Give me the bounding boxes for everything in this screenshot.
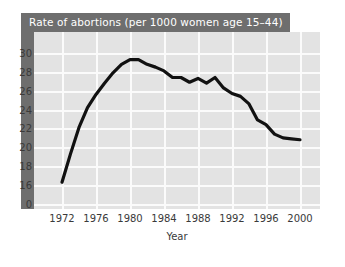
x-axis-tick-label: 1972 [49, 213, 74, 224]
chart-title: Rate of abortions (per 1000 women age 15… [21, 13, 290, 32]
data-line-series [34, 32, 320, 209]
x-axis-ticks: 19721976198019841988199219962000 [34, 213, 320, 227]
x-axis-tick-label: 1996 [253, 213, 278, 224]
y-axis-tick-label: 30 [6, 48, 32, 59]
y-axis-tick-label: 22 [6, 123, 32, 134]
y-axis-tick-label: 16 [6, 180, 32, 191]
y-axis-ticks: 30282624222018160 [0, 32, 32, 209]
abortion-rate-chart: Rate of abortions (per 1000 women age 15… [0, 0, 345, 267]
x-axis-tick-label: 1988 [185, 213, 210, 224]
y-axis-tick-label: 18 [6, 161, 32, 172]
y-axis-tick-label: 20 [6, 142, 32, 153]
y-axis-tick-label: 26 [6, 85, 32, 96]
y-axis-tick-label: 24 [6, 104, 32, 115]
y-axis-tick-label: 28 [6, 66, 32, 77]
x-axis-tick-label: 1984 [151, 213, 176, 224]
x-axis-tick-label: 1976 [83, 213, 108, 224]
x-axis-tick-label: 1992 [219, 213, 244, 224]
x-axis-tick-label: 1980 [117, 213, 142, 224]
plot-area [34, 32, 320, 209]
x-axis-label: Year [34, 231, 320, 242]
x-axis-tick-label: 2000 [287, 213, 312, 224]
y-axis-tick-label: 0 [6, 199, 32, 210]
